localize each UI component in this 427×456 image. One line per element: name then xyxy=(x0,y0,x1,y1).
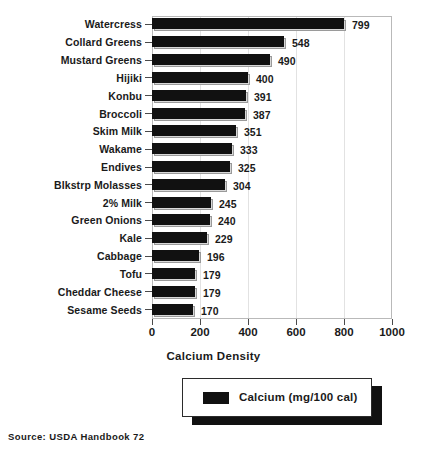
bar xyxy=(152,54,273,68)
y-axis-tickmark xyxy=(145,291,152,292)
bar xyxy=(152,161,233,175)
category-label: Tofu xyxy=(0,269,142,280)
chart-legend: Calcium (mg/100 cal) xyxy=(182,378,372,417)
x-axis-tick-label: 200 xyxy=(190,326,209,338)
x-axis-tick-label: 600 xyxy=(286,326,305,338)
bar-value-label: 325 xyxy=(238,163,256,174)
calcium-density-bar-chart: WatercressCollard GreensMustard GreensHi… xyxy=(0,0,427,456)
x-axis-tick-label: 0 xyxy=(149,326,155,338)
bar-value-label: 333 xyxy=(240,145,258,156)
bar-fill xyxy=(152,108,245,119)
x-axis-tickmarks xyxy=(152,319,392,325)
category-label: Green Onions xyxy=(0,215,142,226)
bar-fill xyxy=(152,250,199,261)
bar xyxy=(152,197,214,211)
y-axis-tickmark xyxy=(145,24,152,25)
legend-label: Calcium (mg/100 cal) xyxy=(239,391,357,403)
y-axis-tickmark xyxy=(145,149,152,150)
y-axis-tickmark xyxy=(145,309,152,310)
bar-value-label: 196 xyxy=(207,252,225,263)
source-note: Source: USDA Handbook 72 xyxy=(8,431,144,442)
y-axis-tickmark xyxy=(145,202,152,203)
y-axis-tickmark xyxy=(145,113,152,114)
x-axis-tickmark xyxy=(248,319,249,325)
bar xyxy=(152,90,249,104)
bar-value-label: 229 xyxy=(215,234,233,245)
category-label: Sesame Seeds xyxy=(0,305,142,316)
bar-fill xyxy=(152,125,236,136)
bar-value-label: 240 xyxy=(218,216,236,227)
bar xyxy=(152,268,198,282)
category-label: Endives xyxy=(0,162,142,173)
bar xyxy=(152,72,251,86)
category-label: Broccoli xyxy=(0,109,142,120)
y-axis-tickmark xyxy=(145,256,152,257)
bar-fill xyxy=(152,197,211,208)
bar-fill xyxy=(152,143,232,154)
category-label: Mustard Greens xyxy=(0,55,142,66)
category-label: Hijiki xyxy=(0,73,142,84)
y-axis-tickmark xyxy=(145,167,152,168)
bar-value-label: 400 xyxy=(256,74,274,85)
bar xyxy=(152,36,287,50)
x-axis-tickmark xyxy=(296,319,297,325)
bar-value-label: 351 xyxy=(244,127,262,138)
x-axis-tick-label: 400 xyxy=(238,326,257,338)
category-label: Konbu xyxy=(0,91,142,102)
category-label: Cheddar Cheese xyxy=(0,287,142,298)
bar-value-label: 179 xyxy=(203,288,221,299)
bar xyxy=(152,250,202,264)
legend-swatch-icon xyxy=(203,392,229,404)
bar xyxy=(152,108,248,122)
bar-fill xyxy=(152,36,284,47)
x-axis-tickmark xyxy=(152,319,153,325)
bar-fill xyxy=(152,72,248,83)
x-axis-tick-label: 1000 xyxy=(379,326,405,338)
bar-fill xyxy=(152,286,195,297)
bar xyxy=(152,214,213,228)
y-axis-tickmark xyxy=(145,238,152,239)
bar-fill xyxy=(152,268,195,279)
category-label: Collard Greens xyxy=(0,37,142,48)
bar-value-label: 548 xyxy=(292,38,310,49)
category-label: Kale xyxy=(0,233,142,244)
bar-fill xyxy=(152,161,230,172)
x-axis-tickmark xyxy=(200,319,201,325)
bar-fill xyxy=(152,232,207,243)
bar-value-label: 179 xyxy=(203,270,221,281)
y-axis-tickmark xyxy=(145,220,152,221)
y-axis-tickmark xyxy=(145,131,152,132)
y-axis-tickmark xyxy=(145,77,152,78)
bar-value-label: 799 xyxy=(352,20,370,31)
bar xyxy=(152,18,347,32)
bar-fill xyxy=(152,179,225,190)
category-label: Wakame xyxy=(0,144,142,155)
bars-layer: 7995484904003913873513333253042452402291… xyxy=(152,16,392,319)
bar xyxy=(152,304,196,318)
category-axis-labels: WatercressCollard GreensMustard GreensHi… xyxy=(0,16,142,319)
bar-fill xyxy=(152,304,193,315)
category-label: Watercress xyxy=(0,19,142,30)
bar xyxy=(152,286,198,300)
bar xyxy=(152,232,210,246)
bar xyxy=(152,143,235,157)
x-axis-tick-label: 800 xyxy=(334,326,353,338)
x-axis-title: Calcium Density xyxy=(0,350,427,362)
bar-fill xyxy=(152,54,270,65)
bar-value-label: 245 xyxy=(219,199,237,210)
category-label: Skim Milk xyxy=(0,126,142,137)
bar-value-label: 304 xyxy=(233,181,251,192)
y-axis-tickmark xyxy=(145,60,152,61)
category-label: Blkstrp Molasses xyxy=(0,180,142,191)
y-axis-tickmark xyxy=(145,42,152,43)
x-axis-tickmark xyxy=(344,319,345,325)
category-label: Cabbage xyxy=(0,251,142,262)
bar-fill xyxy=(152,18,344,29)
bar-fill xyxy=(152,214,210,225)
bar-fill xyxy=(152,90,246,101)
bar xyxy=(152,125,239,139)
bar xyxy=(152,179,228,193)
category-label: 2% Milk xyxy=(0,198,142,209)
y-axis-tickmark xyxy=(145,184,152,185)
bar-value-label: 387 xyxy=(253,110,271,121)
